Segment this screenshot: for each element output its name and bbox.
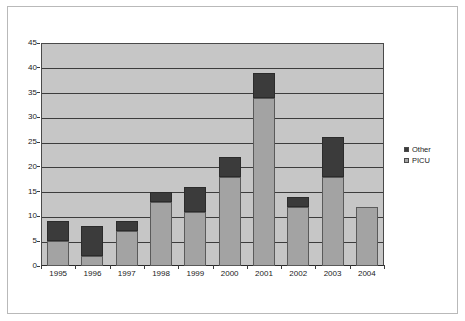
x-axis: 1995199619971998199920002001200220032004 bbox=[41, 269, 384, 285]
x-axis-tick-label: 1996 bbox=[75, 269, 109, 279]
gridline bbox=[42, 143, 383, 144]
x-axis-tick-mark bbox=[384, 265, 385, 269]
x-axis-tick-label: 2000 bbox=[213, 269, 247, 279]
x-axis-tick-mark bbox=[144, 265, 145, 269]
gridline bbox=[42, 192, 383, 193]
gridline bbox=[42, 118, 383, 119]
gridline bbox=[42, 217, 383, 218]
y-axis-tick-label: 5 bbox=[3, 237, 37, 245]
x-axis-tick-label: 2002 bbox=[281, 269, 315, 279]
x-axis-tick-label: 2004 bbox=[350, 269, 384, 279]
x-axis-tick-mark bbox=[75, 265, 76, 269]
x-axis-tick-mark bbox=[281, 265, 282, 269]
y-axis-tick-label: 20 bbox=[3, 163, 37, 171]
x-axis-tick-label: 1997 bbox=[110, 269, 144, 279]
y-axis-tick-mark bbox=[37, 43, 40, 44]
gridline bbox=[42, 68, 383, 69]
legend-swatch-icon bbox=[404, 147, 409, 152]
y-axis-tick-label: 40 bbox=[3, 64, 37, 72]
y-axis-tick-mark bbox=[37, 266, 40, 267]
y-axis-tick-mark bbox=[37, 92, 40, 93]
y-axis-tick-label: 0 bbox=[3, 262, 37, 270]
y-axis-tick-mark bbox=[37, 216, 40, 217]
y-axis-tick-label: 35 bbox=[3, 89, 37, 97]
x-axis-tick-mark bbox=[110, 265, 111, 269]
y-axis-tick-mark bbox=[37, 142, 40, 143]
legend-swatch-icon bbox=[404, 158, 409, 163]
gridline bbox=[42, 242, 383, 243]
x-axis-tick-label: 1999 bbox=[178, 269, 212, 279]
legend-label: PICU bbox=[412, 156, 430, 165]
x-axis-tick-mark bbox=[178, 265, 179, 269]
x-axis-tick-mark bbox=[315, 265, 316, 269]
x-axis-tick-mark bbox=[350, 265, 351, 269]
chart-figure: 051015202530354045 199519961997199819992… bbox=[0, 0, 465, 321]
x-axis-tick-mark bbox=[41, 265, 42, 269]
legend-item[interactable]: Other bbox=[404, 145, 452, 154]
y-axis: 051015202530354045 bbox=[0, 43, 37, 266]
y-axis-tick-label: 45 bbox=[3, 39, 37, 47]
gridline bbox=[42, 167, 383, 168]
y-axis-tick-label: 25 bbox=[3, 138, 37, 146]
chart-legend: OtherPICU bbox=[404, 145, 452, 167]
gridline bbox=[42, 93, 383, 94]
y-axis-tick-mark bbox=[37, 67, 40, 68]
y-axis-tick-mark bbox=[37, 117, 40, 118]
y-axis-tick-mark bbox=[37, 191, 40, 192]
x-axis-tick-mark bbox=[213, 265, 214, 269]
y-axis-tick-label: 10 bbox=[3, 212, 37, 220]
legend-label: Other bbox=[412, 145, 431, 154]
x-axis-tick-label: 2003 bbox=[315, 269, 349, 279]
x-axis-tick-label: 2001 bbox=[247, 269, 281, 279]
x-axis-tick-label: 1998 bbox=[144, 269, 178, 279]
legend-item[interactable]: PICU bbox=[404, 156, 452, 165]
y-axis-tick-label: 30 bbox=[3, 113, 37, 121]
y-axis-tick-mark bbox=[37, 241, 40, 242]
plot-area bbox=[41, 43, 384, 266]
x-axis-tick-mark bbox=[247, 265, 248, 269]
x-axis-tick-label: 1995 bbox=[41, 269, 75, 279]
y-axis-tick-mark bbox=[37, 166, 40, 167]
y-axis-tick-label: 15 bbox=[3, 188, 37, 196]
